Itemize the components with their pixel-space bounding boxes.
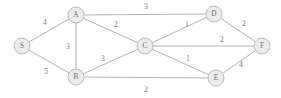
node-label-b: B bbox=[74, 73, 79, 81]
edge-weight-s-b: 5 bbox=[44, 67, 48, 76]
edge-weight-c-e: 1 bbox=[186, 54, 190, 63]
node-c: C bbox=[137, 38, 153, 54]
edge-s-a bbox=[29, 19, 69, 42]
edge-s-b bbox=[29, 50, 69, 73]
node-label-a: A bbox=[73, 11, 79, 19]
graph-diagram: SABCDEF 453233211224 bbox=[0, 0, 281, 98]
node-label-e: E bbox=[214, 74, 219, 82]
edge-weight-a-d: 3 bbox=[144, 2, 148, 11]
edge-a-d bbox=[84, 14, 206, 15]
node-label-s: S bbox=[20, 42, 24, 50]
node-b: B bbox=[68, 69, 84, 85]
node-s: S bbox=[14, 38, 30, 54]
edge-weight-e-f: 4 bbox=[239, 60, 243, 69]
edge-a-c bbox=[83, 18, 137, 42]
edge-weight-a-b: 3 bbox=[66, 42, 70, 51]
node-e: E bbox=[208, 70, 224, 86]
edge-b-c bbox=[83, 49, 137, 73]
edge-c-d bbox=[152, 17, 206, 42]
edge-weight-c-f: 2 bbox=[220, 35, 224, 44]
edge-weight-c-d: 1 bbox=[185, 20, 189, 29]
edge-d-f bbox=[221, 18, 256, 41]
node-label-d: D bbox=[211, 10, 216, 18]
edge-c-e bbox=[152, 49, 208, 74]
edge-weight-s-a: 4 bbox=[43, 18, 47, 27]
graph-canvas: SABCDEF 453233211224 bbox=[0, 0, 281, 98]
node-a: A bbox=[68, 7, 84, 23]
edge-b-e bbox=[84, 77, 208, 78]
edge-weight-b-c: 3 bbox=[101, 54, 105, 63]
node-d: D bbox=[206, 6, 222, 22]
edge-weight-b-e: 2 bbox=[144, 85, 148, 94]
node-label-f: F bbox=[260, 42, 264, 50]
edge-weight-a-c: 2 bbox=[114, 20, 118, 29]
node-f: F bbox=[254, 38, 270, 54]
edge-weight-d-f: 2 bbox=[242, 19, 246, 28]
node-label-c: C bbox=[143, 42, 148, 50]
